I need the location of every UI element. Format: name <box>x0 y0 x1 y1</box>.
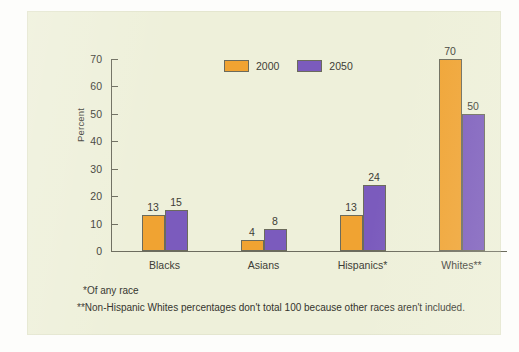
scanned-page: 2000 2050 Percent 010203040506070 1315Bl… <box>0 0 519 352</box>
y-tick-label: 50 <box>90 108 102 120</box>
y-tick-label: 60 <box>90 80 102 92</box>
bar-whites-2050: 50 <box>462 114 485 251</box>
bar-group-whites: 7050Whites** <box>439 59 485 251</box>
bar-group-hispanics: 1324Hispanics* <box>340 59 386 251</box>
bar-value-label: 15 <box>170 196 182 208</box>
footnotes: *Of any race **Non-Hispanic Whites perce… <box>77 282 507 316</box>
bar-value-label: 50 <box>467 100 479 112</box>
bar-value-label: 8 <box>272 215 278 227</box>
y-tick-label: 30 <box>90 163 102 175</box>
bar-group-asians: 48Asians <box>241 59 287 251</box>
bar-value-label: 4 <box>249 226 255 238</box>
y-tick-mark <box>112 169 118 170</box>
bar-value-label: 24 <box>368 171 380 183</box>
y-tick-mark <box>112 86 118 87</box>
y-tick-mark <box>112 224 118 225</box>
bar-value-label: 70 <box>444 45 456 57</box>
y-tick-mark <box>112 141 118 142</box>
y-tick-label: 20 <box>90 190 102 202</box>
x-category-label: Asians <box>248 259 280 271</box>
bar-asians-2050: 8 <box>264 229 287 251</box>
y-axis-title: Percent <box>75 108 86 142</box>
bar-hispanics-2050: 24 <box>363 185 386 251</box>
y-tick-mark <box>112 196 118 197</box>
bar-blacks-2000: 13 <box>142 215 165 251</box>
y-tick-mark <box>112 59 118 60</box>
x-category-label: Hispanics* <box>338 259 388 271</box>
footnote-non-hispanic-whites: **Non-Hispanic Whites percentages don't … <box>77 299 507 316</box>
y-axis-line <box>111 59 112 251</box>
footnote-of-any-race: *Of any race <box>83 282 507 299</box>
y-tick-label: 70 <box>90 53 102 65</box>
y-tick-label: 10 <box>90 218 102 230</box>
y-tick-label: 40 <box>90 135 102 147</box>
bar-hispanics-2000: 13 <box>340 215 363 251</box>
x-axis-line <box>111 251 507 252</box>
bar-blacks-2050: 15 <box>165 210 188 251</box>
bar-group-blacks: 1315Blacks <box>142 59 188 251</box>
plot-area: 010203040506070 1315Blacks48Asians1324Hi… <box>111 59 507 251</box>
bar-value-label: 13 <box>147 201 159 213</box>
chart-panel: 2000 2050 Percent 010203040506070 1315Bl… <box>27 11 501 335</box>
x-category-label: Blacks <box>149 259 180 271</box>
bar-value-label: 13 <box>345 201 357 213</box>
y-tick-mark <box>112 114 118 115</box>
y-tick-label: 0 <box>96 245 102 257</box>
x-category-label: Whites** <box>441 259 481 271</box>
y-tick-mark <box>112 251 118 252</box>
bar-asians-2000: 4 <box>241 240 264 251</box>
bar-whites-2000: 70 <box>439 59 462 251</box>
